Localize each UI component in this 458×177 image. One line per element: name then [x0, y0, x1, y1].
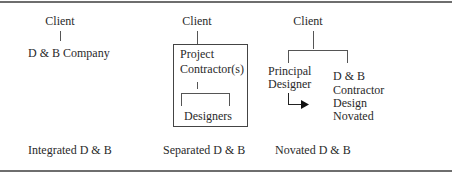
novation-arrow-shaft — [288, 104, 302, 105]
connector-line — [197, 31, 198, 44]
novated-label: Novated — [333, 110, 374, 123]
bottom-rule — [0, 170, 452, 172]
dnb-company-node: D & B Company — [28, 47, 110, 60]
branch-right — [347, 50, 348, 63]
designer-label: Designer — [268, 78, 311, 91]
inner-connector-line — [197, 82, 198, 89]
client-label: Client — [293, 15, 322, 28]
client-label: Client — [45, 15, 74, 28]
caption-separated: Separated D & B — [163, 144, 245, 157]
novation-arrow-stem — [288, 93, 289, 104]
bracket-right — [229, 93, 230, 106]
dnb-label: D & B — [333, 70, 365, 83]
branch-left — [288, 50, 289, 63]
client-label: Client — [182, 15, 211, 28]
caption-integrated: Integrated D & B — [28, 144, 112, 157]
arrowhead-icon — [301, 100, 309, 109]
connector-line — [60, 31, 61, 41]
caption-novated: Novated D & B — [275, 144, 351, 157]
bracket-left — [181, 93, 182, 106]
top-rule — [0, 1, 452, 3]
contractors-label: Contractor(s) — [180, 63, 244, 76]
bracket-top — [181, 93, 230, 94]
designers-node: Designers — [184, 110, 232, 123]
project-label: Project — [180, 48, 214, 61]
branch-line — [288, 50, 348, 51]
connector-line — [313, 31, 314, 49]
